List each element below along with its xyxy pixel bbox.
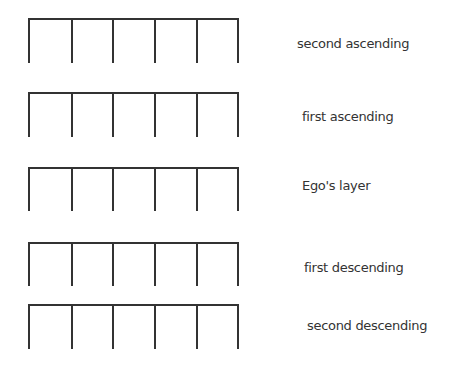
layer-comb-second-ascending (28, 18, 240, 64)
layer-comb-first-descending (28, 242, 240, 288)
layer-comb-first-ascending (28, 92, 240, 138)
layer-comb-ego (28, 167, 240, 213)
layer-label-ego: Ego's layer (302, 178, 370, 194)
layer-label-second-descending: second descending (307, 318, 427, 334)
layer-label-first-descending: first descending (304, 260, 404, 276)
layer-label-second-ascending: second ascending (297, 36, 409, 52)
layer-label-first-ascending: first ascending (302, 109, 394, 125)
layer-comb-second-descending (28, 304, 240, 350)
